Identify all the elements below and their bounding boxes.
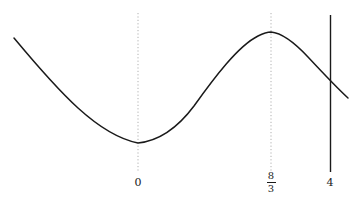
function-plot xyxy=(0,0,355,210)
xtick-label-eight-thirds: 8 3 xyxy=(256,171,286,194)
xtick-label-four-text: 4 xyxy=(327,176,334,189)
fraction-numerator: 8 xyxy=(256,171,286,182)
xtick-label-zero-text: 0 xyxy=(135,176,142,189)
figure-canvas: 0 8 3 4 xyxy=(0,0,355,210)
xtick-label-four: 4 xyxy=(315,177,345,188)
fraction-denominator: 3 xyxy=(256,183,286,194)
xtick-label-zero: 0 xyxy=(123,177,153,188)
function-curve xyxy=(14,32,348,143)
